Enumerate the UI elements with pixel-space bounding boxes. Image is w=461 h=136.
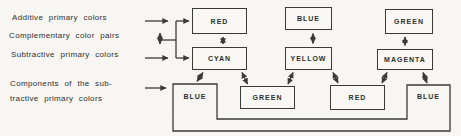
yellow-green-component-arrow-icon xyxy=(288,73,293,85)
magenta-blue-component-arrow-icon xyxy=(423,73,427,84)
yellow-red-component-arrow-icon xyxy=(333,73,338,84)
magenta-red-component-arrow-icon xyxy=(382,73,387,84)
box-component-blue-left-label: BLUE xyxy=(183,93,206,100)
box-component-blue-right-label: BLUE xyxy=(417,93,440,100)
cyan-green-component-arrow-icon xyxy=(242,73,248,85)
box-additive-green: GREEN xyxy=(385,9,433,34)
box-component-blue-right: BLUE xyxy=(407,86,450,106)
box-subtractive-cyan: CYAN xyxy=(192,47,247,70)
label-components-line1: Components of the sub- xyxy=(10,79,112,88)
box-subtractive-magenta-label: MAGENTA xyxy=(384,56,426,63)
box-additive-green-label: GREEN xyxy=(394,18,424,25)
box-component-green-label: GREEN xyxy=(253,94,283,101)
color-theory-diagram: Additive primary colors Complementary co… xyxy=(0,0,461,136)
box-additive-blue-label: BLUE xyxy=(297,15,320,22)
box-subtractive-cyan-label: CYAN xyxy=(208,55,231,62)
box-component-blue-left: BLUE xyxy=(173,85,217,107)
label-subtractive-primary: Subtractive primary colors xyxy=(11,50,119,59)
box-subtractive-yellow-label: YELLOW xyxy=(291,55,327,62)
cyan-blue-component-arrow-icon xyxy=(197,73,203,82)
box-subtractive-magenta: MAGENTA xyxy=(377,49,433,70)
box-component-green: GREEN xyxy=(240,86,295,109)
box-component-red-label: RED xyxy=(349,94,367,101)
box-component-red: RED xyxy=(330,85,385,110)
box-subtractive-yellow: YELLOW xyxy=(285,47,332,70)
box-additive-blue: BLUE xyxy=(285,7,332,30)
label-components-line2: tractive primary colors xyxy=(10,94,102,103)
box-additive-red: RED xyxy=(192,8,247,34)
label-additive-primary: Additive primary colors xyxy=(12,13,107,22)
box-additive-red-label: RED xyxy=(211,18,229,25)
label-complementary-pairs: Complementary color pairs xyxy=(9,31,119,40)
